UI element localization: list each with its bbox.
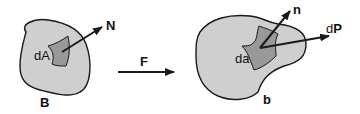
reference-area-label: dA: [34, 48, 50, 63]
force-label: dP: [326, 21, 342, 36]
current-body-label: b: [263, 92, 271, 107]
diagram-svg: dA N B F da n dP b: [0, 0, 360, 114]
current-body: da n dP b: [196, 2, 342, 107]
reference-body-label: B: [40, 95, 49, 110]
reference-body: dA N B: [20, 18, 115, 110]
force-label-vector: P: [333, 21, 342, 36]
current-area-label: da: [235, 51, 250, 66]
current-normal-label: n: [293, 2, 301, 17]
mapping-label: F: [140, 54, 148, 69]
reference-normal-label: N: [106, 18, 115, 33]
force-label-prefix: d: [326, 21, 333, 36]
mapping: F: [118, 54, 174, 72]
deformation-diagram: dA N B F da n dP b: [0, 0, 360, 114]
